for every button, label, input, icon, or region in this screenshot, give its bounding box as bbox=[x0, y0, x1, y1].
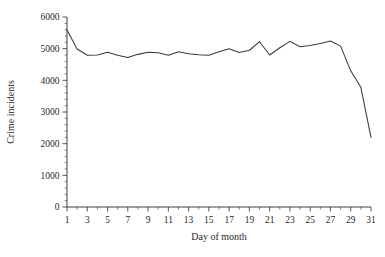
line-chart-canvas: 0100020003000400050006000 Crime incident… bbox=[0, 0, 385, 257]
x-tick-label-11: 11 bbox=[164, 215, 173, 225]
x-axis-tick-labels: 135791113151719212325272931 bbox=[65, 215, 376, 225]
x-tick-label-1: 1 bbox=[65, 215, 70, 225]
x-tick-label-23: 23 bbox=[285, 215, 295, 225]
y-tick-label-0: 0 bbox=[55, 202, 60, 212]
x-tick-label-17: 17 bbox=[224, 215, 234, 225]
y-tick-label-3000: 3000 bbox=[41, 107, 60, 117]
y-axis-group: 0100020003000400050006000 Crime incident… bbox=[5, 12, 67, 212]
data-series-group bbox=[67, 30, 371, 137]
y-tick-label-5000: 5000 bbox=[41, 44, 60, 54]
x-tick-label-7: 7 bbox=[125, 215, 130, 225]
y-tick-label-6000: 6000 bbox=[41, 12, 60, 22]
x-tick-label-19: 19 bbox=[245, 215, 255, 225]
x-axis-title: Day of month bbox=[191, 231, 247, 242]
x-tick-label-3: 3 bbox=[85, 215, 90, 225]
x-tick-label-9: 9 bbox=[146, 215, 151, 225]
y-axis-ticks bbox=[63, 17, 68, 207]
x-axis-group: 135791113151719212325272931 Day of month bbox=[65, 207, 376, 242]
x-tick-label-5: 5 bbox=[105, 215, 110, 225]
x-tick-label-15: 15 bbox=[204, 215, 214, 225]
x-tick-label-13: 13 bbox=[184, 215, 194, 225]
x-tick-label-27: 27 bbox=[326, 215, 336, 225]
y-axis-tick-labels: 0100020003000400050006000 bbox=[41, 12, 60, 212]
x-tick-label-25: 25 bbox=[305, 215, 315, 225]
y-tick-label-1000: 1000 bbox=[41, 171, 60, 181]
x-tick-label-29: 29 bbox=[346, 215, 356, 225]
crime-incidents-line bbox=[67, 30, 371, 137]
y-tick-label-2000: 2000 bbox=[41, 139, 60, 149]
chart-figure: 0100020003000400050006000 Crime incident… bbox=[0, 0, 385, 257]
y-axis-title: Crime incidents bbox=[5, 80, 16, 144]
x-tick-label-21: 21 bbox=[265, 215, 275, 225]
x-tick-label-31: 31 bbox=[366, 215, 376, 225]
y-tick-label-4000: 4000 bbox=[41, 76, 60, 86]
